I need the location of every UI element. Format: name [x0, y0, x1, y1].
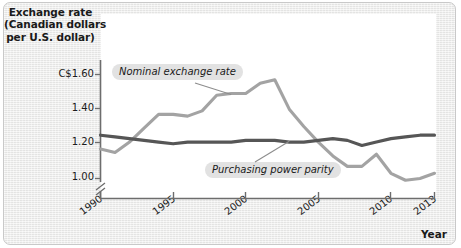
leader-line-ppp — [255, 141, 289, 162]
chart-figure: Exchange rate (Canadian dollars per U.S.… — [0, 0, 461, 248]
line-purchasing-power-parity — [101, 135, 435, 145]
line-nominal-exchange-rate — [101, 80, 435, 181]
leader-line-nominal — [195, 83, 231, 94]
chart-plot-svg — [0, 0, 461, 248]
